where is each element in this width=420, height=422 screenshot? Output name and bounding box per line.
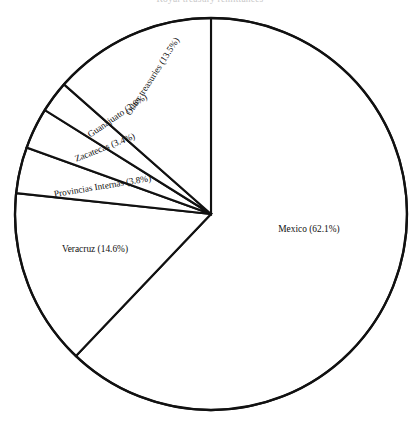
pie-label-veracruz: Veracruz (14.6%) <box>62 244 128 255</box>
pie-chart-figure: Royal treasury remittances Mexico (62.1%… <box>0 0 420 422</box>
pie-slices-group <box>15 18 407 410</box>
pie-chart-svg: Mexico (62.1%) Veracruz (14.6%) Provinci… <box>0 0 420 422</box>
pie-label-mexico: Mexico (62.1%) <box>278 224 339 235</box>
